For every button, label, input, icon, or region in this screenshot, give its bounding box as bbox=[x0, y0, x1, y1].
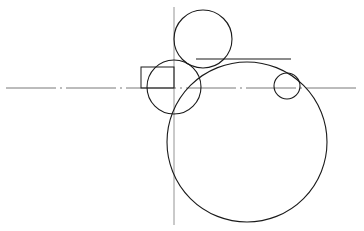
construction-drawing bbox=[0, 0, 364, 231]
large-circle bbox=[167, 62, 327, 222]
diagram-canvas bbox=[0, 0, 364, 231]
rectangle-outline bbox=[141, 67, 174, 88]
small-right-circle bbox=[274, 73, 300, 99]
